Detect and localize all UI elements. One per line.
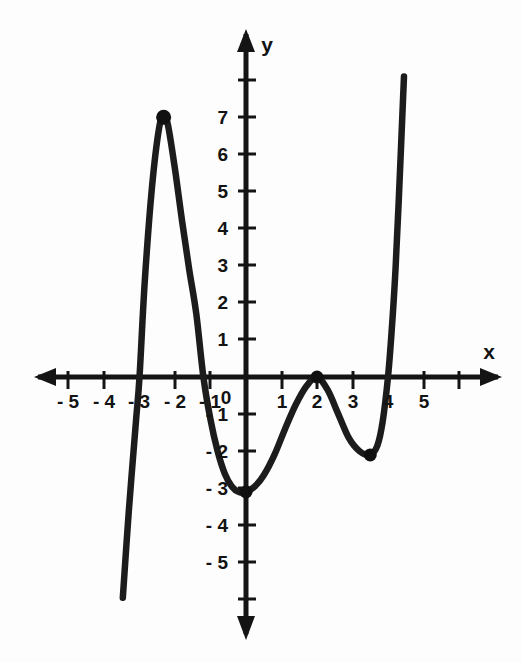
y-tick-label-7: 7 <box>217 107 228 128</box>
marked-point-local-min-right <box>364 448 377 461</box>
x-tick-label--3: - 3 <box>128 391 150 412</box>
y-tick-label--5: - 5 <box>206 552 229 573</box>
origin-label: 0 <box>221 387 232 408</box>
marked-points-group <box>156 110 377 499</box>
graph-canvas: - 5 - 4 - 3 - 2 - 1 1 2 3 4 5 7 6 5 4 3 … <box>0 0 522 662</box>
polynomial-graph-figure: - 5 - 4 - 3 - 2 - 1 1 2 3 4 5 7 6 5 4 3 … <box>0 0 522 662</box>
axis-names-group: x y <box>261 33 495 363</box>
x-tick-label-4: 4 <box>383 391 394 412</box>
y-tick-label-4: 4 <box>217 218 228 239</box>
y-tick-label-6: 6 <box>217 144 228 165</box>
x-tick-label--2: - 2 <box>164 391 186 412</box>
y-tick-label--2: - 2 <box>206 441 228 462</box>
y-tick-label-3: 3 <box>217 255 228 276</box>
x-axis-label: x <box>483 340 495 363</box>
y-tick-label-5: 5 <box>217 181 228 202</box>
marked-point-local-max-left <box>156 110 171 125</box>
x-tick-label-5: 5 <box>419 391 430 412</box>
x-tick-label--4: - 4 <box>93 391 116 412</box>
y-axis-up-arrow-icon <box>237 29 255 52</box>
polynomial-curve <box>123 76 404 597</box>
y-tick-label-2: 2 <box>217 292 228 313</box>
y-axis-label: y <box>261 33 273 56</box>
x-axis-right-arrow-icon <box>480 368 502 386</box>
y-tick-label--4: - 4 <box>206 515 229 536</box>
x-axis-left-arrow-icon <box>34 368 56 386</box>
x-tick-label-2: 2 <box>312 391 323 412</box>
marked-point-local-min-origin <box>240 486 253 499</box>
x-tick-label-3: 3 <box>348 391 359 412</box>
axes-group <box>34 29 502 640</box>
x-tick-label-1: 1 <box>277 391 288 412</box>
y-tick-label--3: - 3 <box>206 478 228 499</box>
curve-group <box>123 76 404 597</box>
y-axis-down-arrow-icon <box>237 616 255 640</box>
x-axis-ticks <box>68 371 459 389</box>
y-tick-label-1: 1 <box>217 329 228 350</box>
x-tick-label--5: - 5 <box>57 391 80 412</box>
marked-point-local-max-on-axis <box>311 371 324 384</box>
